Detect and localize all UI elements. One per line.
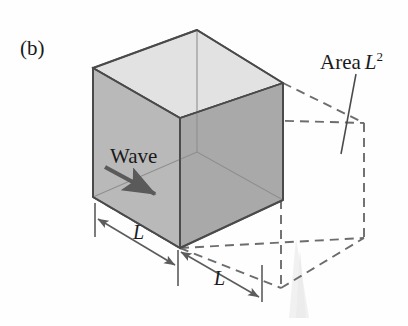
- dimension-label-front: L: [133, 222, 144, 242]
- dimension-label-depth: L: [214, 268, 225, 288]
- area-leader-line: [341, 74, 356, 154]
- diagram-canvas: [0, 0, 408, 326]
- figure-cube-wave-flux-diagram: (b) AreaL2 Wave L L: [0, 0, 408, 326]
- wave-label: Wave: [110, 146, 157, 167]
- dashed-lower-horizontal: [180, 238, 364, 248]
- cube-solid: [93, 30, 283, 248]
- dashed-floor-front-right: [180, 248, 281, 288]
- area-label-exponent: 2: [377, 49, 384, 64]
- area-label: AreaL2: [320, 50, 383, 73]
- panel-label: (b): [20, 38, 45, 59]
- dashed-top-right-edge: [283, 83, 364, 123]
- area-label-text: Area: [320, 50, 361, 74]
- area-label-symbol: L: [361, 50, 377, 74]
